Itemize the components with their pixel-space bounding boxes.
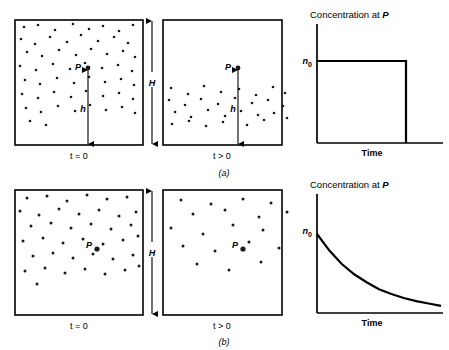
particle [138,265,141,268]
particle [133,84,136,87]
particle [180,199,183,202]
chart-title-prefix: Concentration at [310,9,382,20]
particle [248,241,251,244]
particle [202,233,205,236]
particle [85,90,88,93]
particle [40,111,43,114]
distance-h-label: h [230,104,236,114]
height-label: H [149,248,156,258]
point-p-label: P [225,62,232,72]
particle [54,29,57,32]
particle [102,95,105,98]
particle [113,36,116,39]
particle [64,272,67,275]
time-label-initial: t = 0 [70,321,88,331]
particle [53,91,56,94]
particle [255,94,258,97]
particle [207,109,210,112]
particle [117,64,120,67]
particle [126,196,129,199]
particle [210,203,213,206]
particle [56,77,59,80]
panel-a: P h t = 0 H P h t > 0 [15,9,443,178]
particle [286,117,289,120]
particle [35,69,38,72]
particle [171,123,174,126]
particle [258,216,261,219]
time-label-initial: t = 0 [70,151,88,161]
particle [89,104,92,107]
particle [132,24,135,27]
particle [70,96,73,99]
particle [170,227,173,230]
particle [214,250,217,253]
particle [36,283,39,286]
particle [110,228,113,231]
particle [272,86,275,89]
panel-tag-b: (b) [219,337,230,347]
particle [86,194,89,197]
chart-title: Concentration at P [310,9,389,20]
point-p-label: P [75,62,82,72]
particle [232,224,235,227]
particle [19,210,22,213]
particle [84,62,87,65]
particle [273,112,276,115]
particle [278,247,281,250]
particle [137,235,140,238]
particle [135,211,138,214]
particle [52,252,55,255]
particle [46,195,49,198]
point-p-marker [94,246,99,251]
particle [260,261,263,264]
height-dimension-b: H [145,191,160,314]
particle [106,198,109,201]
point-p-marker [240,246,245,251]
particle [39,83,42,86]
particle [270,202,273,205]
time-label-later: t > 0 [213,321,231,331]
particle [70,227,73,230]
particle [44,267,47,270]
particle [24,270,27,273]
particle [234,97,237,100]
particle [72,257,75,260]
particle [262,229,265,232]
panel-a-chart-step: Concentration at P n0 Time [303,9,443,158]
panel-b-chart-decay: Concentration at P n0 Time [303,179,443,328]
particle [62,242,65,245]
particle [121,106,124,109]
particle [130,224,133,227]
y-tick-label-n0: n0 [303,56,313,68]
panel-b-box-initial: P t = 0 [15,190,143,331]
distance-h-label: h [80,104,86,114]
particle [263,119,266,122]
particle [220,91,223,94]
particle [122,50,125,53]
point-p-label: P [232,240,239,250]
particle [24,79,27,82]
chart-title-symbol: P [382,9,389,20]
particle [73,82,76,85]
n-subscript: 0 [308,61,312,68]
particle [21,93,24,96]
particle [25,107,28,110]
particle [92,253,95,256]
particle [196,263,199,266]
particle [251,102,254,105]
particle [26,197,29,200]
particle [57,105,60,108]
particle [188,120,191,123]
particle [184,104,187,107]
particle [26,51,29,54]
particle [37,97,40,100]
panel-b-box-later: P t > 0 [163,190,289,331]
particle [286,211,289,214]
particle [22,240,25,243]
y-tick-label-n0: n0 [303,226,313,238]
particle [23,26,26,29]
particle [112,258,115,261]
particle [90,48,93,51]
particle [84,268,87,271]
particle [257,114,260,117]
